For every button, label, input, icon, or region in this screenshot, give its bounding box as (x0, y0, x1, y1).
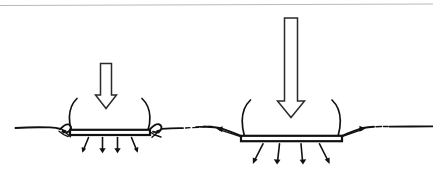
top-frame-rule (0, 4, 433, 6)
pressure-arrow-1 (82, 138, 89, 153)
pressure-arrow-2 (99, 138, 105, 154)
footing-bearing-capacity-diagram (0, 0, 433, 179)
applied-load-arrow-small (96, 64, 117, 109)
pressure-arrow-3 (300, 144, 307, 165)
pressure-arrow-2 (274, 144, 281, 165)
settlement-slope-left-wide (221, 128, 241, 135)
shear-failure-curve-right-wide (332, 100, 340, 136)
shear-failure-curve-left-narrow (69, 99, 77, 130)
figure-frame: Bearing capacity of narrow and wide foot… (0, 0, 433, 179)
footing-slab-wide (241, 136, 342, 141)
ground-surface-right-run (362, 126, 433, 128)
contact-pressure-arrows-narrow (82, 138, 139, 154)
pressure-arrow-1 (253, 144, 263, 164)
pressure-arrow-4 (320, 144, 330, 164)
ground-surface-right-panel-left (196, 127, 221, 129)
shear-failure-curve-right-narrow (142, 99, 150, 130)
pressure-arrow-3 (114, 138, 120, 154)
shear-failure-curve-left-wide (242, 100, 250, 136)
settlement-slope-right-wide (342, 128, 362, 136)
applied-load-arrow-large (278, 18, 305, 118)
pressure-arrow-4 (132, 138, 139, 153)
footing-slab-narrow (70, 130, 150, 135)
contact-pressure-arrows-wide (253, 144, 330, 165)
wide-footing-panel (196, 18, 433, 164)
ground-surface-left (16, 127, 61, 129)
narrow-footing-panel (16, 64, 213, 154)
